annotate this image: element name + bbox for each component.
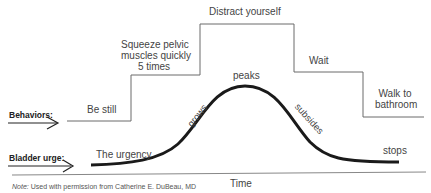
time-axis-label: Time (230, 178, 252, 189)
time-axis (12, 172, 426, 175)
behavior-walk-line-2: bathroom (375, 99, 415, 110)
behavior-be-still: Be still (87, 104, 116, 115)
note-text: Used with permission from Catherine E. D… (29, 183, 196, 190)
behavior-wait: Wait (309, 55, 329, 66)
urge-phase-top: peaks (233, 70, 260, 81)
behavior-squeeze-pelvic: Squeeze pelvic muscles quickly 5 times (121, 39, 187, 72)
urge-phase-end: stops (383, 145, 407, 156)
permission-note: Note: Used with permission from Catherin… (12, 181, 196, 192)
urge-behavior-diagram: Behaviors: Bladder urge: Be still Squeez… (0, 0, 431, 193)
urge-phase-start: The urgency (96, 149, 152, 160)
behavior-distract-yourself: Distract yourself (209, 6, 281, 17)
behavior-walk-line-1: Walk to (375, 88, 415, 99)
note-prefix: Note: (12, 183, 29, 190)
behaviors-row-label: Behaviors: (9, 110, 53, 121)
behavior-walk-to-bathroom: Walk to bathroom (375, 88, 415, 110)
diagram-lines (0, 0, 431, 193)
behavior-squeeze-line-3: 5 times (121, 61, 187, 72)
behavior-squeeze-line-1: Squeeze pelvic (121, 39, 187, 50)
bladder-urge-row-label: Bladder urge: (9, 153, 64, 164)
behavior-squeeze-line-2: muscles quickly (121, 50, 187, 61)
